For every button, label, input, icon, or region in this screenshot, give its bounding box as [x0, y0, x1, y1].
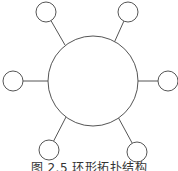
node-right — [158, 71, 178, 91]
link-top-right — [114, 21, 124, 43]
link-bottom-left — [54, 117, 66, 141]
topology-diagram — [0, 0, 178, 171]
node-top-left — [36, 2, 56, 22]
node-bottom-left — [39, 140, 59, 160]
node-top-right — [118, 2, 138, 22]
link-top-left — [51, 21, 65, 45]
figure-caption: 图 2.5 环形拓扑结构 — [0, 158, 178, 171]
link-bottom-right — [118, 117, 132, 143]
node-left — [3, 71, 23, 91]
central-hub — [48, 36, 138, 126]
